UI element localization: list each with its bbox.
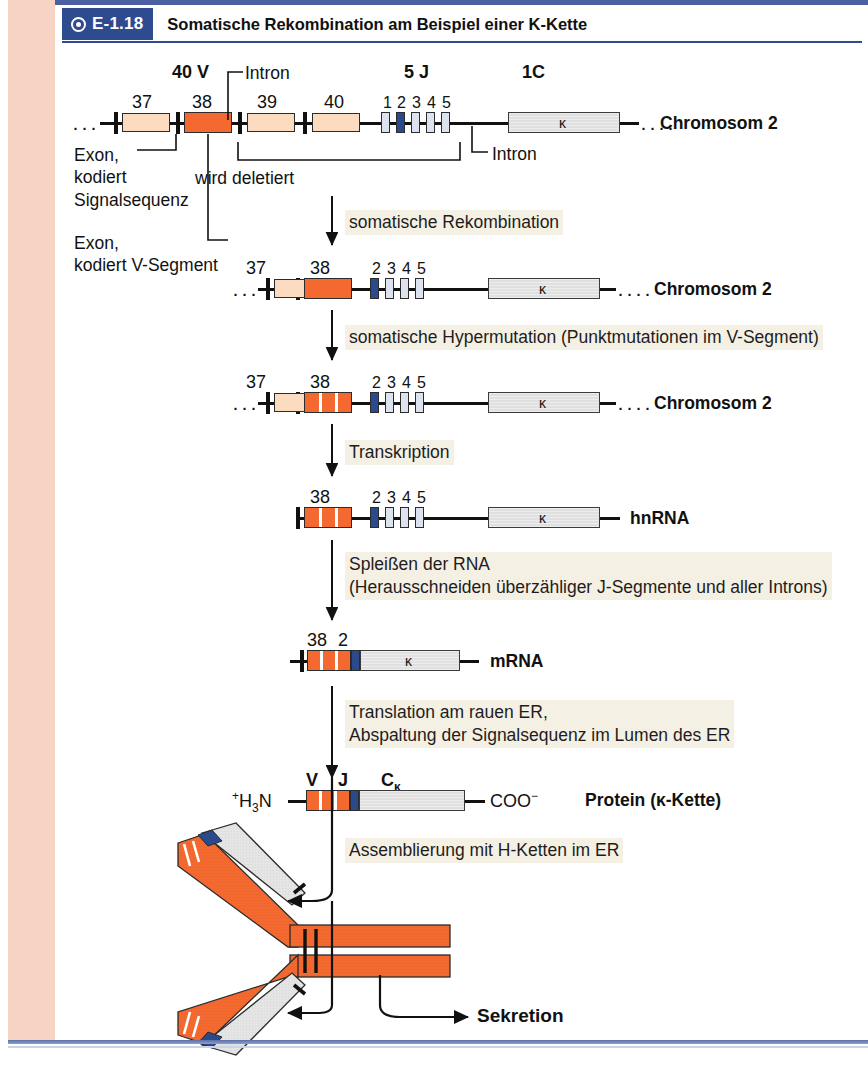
number-39: 39 bbox=[257, 92, 277, 113]
step-label-translation: Translation am rauen ER, Abspaltung der … bbox=[345, 700, 734, 748]
step-label-hypermutation: somatische Hypermutation (Punktmutatione… bbox=[345, 325, 823, 350]
label-40v: 40 V bbox=[172, 62, 209, 83]
domain-label-c-text: C bbox=[381, 770, 394, 790]
point-mutation-1 bbox=[319, 393, 322, 412]
annot-exon-signal-l1: Exon, bbox=[74, 144, 189, 166]
r4-j-segment-4 bbox=[400, 507, 409, 528]
label-5j: 5 J bbox=[404, 62, 429, 83]
r2-leading-dots: ··· bbox=[232, 282, 259, 303]
number-37: 37 bbox=[132, 92, 152, 113]
r4-number-j5: 5 bbox=[417, 489, 426, 507]
c-terminus-label: COO− bbox=[490, 789, 538, 812]
r5-number-2: 2 bbox=[338, 630, 348, 651]
r5-kappa-glyph: κ bbox=[405, 653, 412, 669]
r2-number-j3: 3 bbox=[387, 260, 396, 278]
r5-exon-box-38 bbox=[307, 650, 351, 671]
r3-j-segment-5 bbox=[415, 392, 424, 413]
r3-leading-dots: ··· bbox=[232, 396, 259, 417]
r4-j-segment-2 bbox=[370, 507, 379, 528]
figure-page: E-1.18 Somatische Rekombination am Beisp… bbox=[0, 0, 868, 1081]
r2-exon-box-38 bbox=[304, 278, 352, 299]
r2-j-segment-3 bbox=[385, 278, 394, 299]
r2-j-segment-5 bbox=[415, 278, 424, 299]
r2-j-segment-2 bbox=[370, 278, 379, 299]
r4-number-j4: 4 bbox=[402, 489, 411, 507]
n-terminus-label: +H3N bbox=[232, 789, 272, 815]
r3-number-37: 37 bbox=[246, 372, 266, 393]
j-segment-4 bbox=[426, 112, 435, 133]
r4-j-segment-3 bbox=[385, 507, 394, 528]
r3-trailing-dots: ···· bbox=[617, 396, 653, 417]
r3-row-label: Chromosom 2 bbox=[654, 393, 772, 414]
r3-exon-box-38 bbox=[304, 392, 352, 413]
point-mutation-2 bbox=[335, 393, 338, 412]
figure-title: Somatische Rekombination am Beispiel ein… bbox=[153, 8, 587, 40]
exon-box-37 bbox=[122, 113, 170, 132]
r4-exon-box-38 bbox=[304, 507, 352, 528]
r3-j-segment-4 bbox=[400, 392, 409, 413]
number-j4: 4 bbox=[427, 94, 436, 112]
leading-dots: ··· bbox=[72, 116, 99, 137]
j-segment-5 bbox=[441, 112, 450, 133]
r2-kappa-glyph: κ bbox=[539, 281, 546, 297]
number-40: 40 bbox=[324, 92, 344, 113]
annot-exon-v-l1: Exon, bbox=[74, 232, 218, 254]
heavy-chain-arm-lower bbox=[178, 955, 298, 1044]
figure-number: E-1.18 bbox=[92, 14, 143, 34]
r5-number-38: 38 bbox=[307, 630, 327, 651]
r3-j-segment-2 bbox=[370, 392, 379, 413]
fc-bar-lower bbox=[290, 955, 450, 977]
label-wird-deletiert: wird deletiert bbox=[195, 168, 294, 189]
protein-mutation-2 bbox=[334, 791, 337, 810]
protein-c-domain bbox=[359, 790, 465, 811]
r2-number-j5: 5 bbox=[417, 260, 426, 278]
r4-number-38: 38 bbox=[310, 487, 330, 508]
bullseye-icon bbox=[71, 17, 86, 32]
r2-number-j2: 2 bbox=[372, 260, 381, 278]
number-j3: 3 bbox=[412, 94, 421, 112]
exon-box-39 bbox=[247, 113, 295, 132]
r2-trailing-dots: ···· bbox=[617, 282, 653, 303]
r3-number-j5: 5 bbox=[417, 374, 426, 392]
r2-number-37: 37 bbox=[246, 258, 266, 279]
r4-point-mutation-2 bbox=[335, 508, 338, 527]
label-1c: 1C bbox=[522, 62, 545, 83]
step-label-assembly: Assemblierung mit H-Ketten im ER bbox=[345, 838, 623, 863]
bottom-rule bbox=[8, 1040, 868, 1044]
r4-row-label: hnRNA bbox=[630, 508, 689, 529]
r3-kappa-glyph: κ bbox=[539, 395, 546, 411]
fc-bar-upper bbox=[290, 925, 450, 947]
figure-caption-bar: E-1.18 Somatische Rekombination am Beisp… bbox=[62, 8, 862, 40]
step-label-recombination: somatische Rekombination bbox=[345, 210, 563, 235]
j-segment-1 bbox=[381, 112, 390, 133]
bottom-rule-secondary bbox=[8, 1046, 868, 1048]
r4-point-mutation-1 bbox=[319, 508, 322, 527]
protein-v-domain bbox=[306, 790, 350, 811]
disulfide-bonds bbox=[305, 929, 316, 973]
exon-box-40 bbox=[312, 113, 360, 132]
r4-number-j2: 2 bbox=[372, 489, 381, 507]
label-intron-top: Intron bbox=[245, 63, 290, 84]
label-sekretion: Sekretion bbox=[477, 1005, 564, 1027]
assembly-arrows bbox=[288, 778, 468, 1017]
r4-kappa-glyph: κ bbox=[539, 510, 546, 526]
r3-number-j4: 4 bbox=[402, 374, 411, 392]
heavy-chain-arm-upper bbox=[175, 834, 298, 947]
r2-number-38: 38 bbox=[310, 258, 330, 279]
annot-exon-signal-l3: Signalsequenz bbox=[74, 189, 189, 211]
r5-j-segment-2 bbox=[351, 650, 360, 671]
r5-point-mutation-1 bbox=[320, 651, 323, 670]
top-rule bbox=[55, 0, 868, 5]
r3-number-38: 38 bbox=[310, 372, 330, 393]
annot-exon-signal-l2: kodiert bbox=[74, 166, 189, 188]
j-segment-2 bbox=[396, 112, 405, 133]
r4-j-segment-5 bbox=[415, 507, 424, 528]
r5-point-mutation-2 bbox=[335, 651, 338, 670]
protein-mutation-1 bbox=[319, 791, 322, 810]
caption-underline bbox=[62, 41, 862, 43]
r5-row-label: mRNA bbox=[490, 651, 543, 672]
protein-j-domain bbox=[350, 790, 359, 811]
number-j5: 5 bbox=[442, 94, 451, 112]
light-chain-upper bbox=[202, 823, 305, 905]
kappa-glyph: κ bbox=[559, 115, 566, 131]
